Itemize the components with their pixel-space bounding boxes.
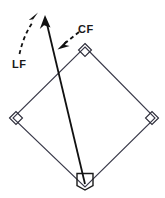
square-shape bbox=[13, 47, 155, 187]
solid-ray-group bbox=[40, 15, 85, 184]
square-outline bbox=[13, 47, 155, 187]
right-angle-marker-left bbox=[10, 112, 23, 125]
cf-callout-line bbox=[64, 32, 80, 45]
lf-callout-line bbox=[20, 21, 34, 54]
right-angle-marker-top bbox=[79, 44, 92, 57]
lf-callout-arrowhead bbox=[29, 13, 38, 24]
label-lf: LF bbox=[12, 58, 27, 70]
solid-ray-arrowhead bbox=[40, 15, 51, 29]
label-cf: CF bbox=[78, 23, 94, 35]
lf-callout-group bbox=[20, 13, 39, 55]
right-angle-markers bbox=[10, 44, 159, 191]
geometry-diagram-canvas: LF CF bbox=[0, 0, 165, 198]
right-angle-marker-right bbox=[146, 112, 159, 125]
geometry-figure: LF CF bbox=[0, 0, 165, 198]
cf-callout-group bbox=[58, 32, 80, 50]
